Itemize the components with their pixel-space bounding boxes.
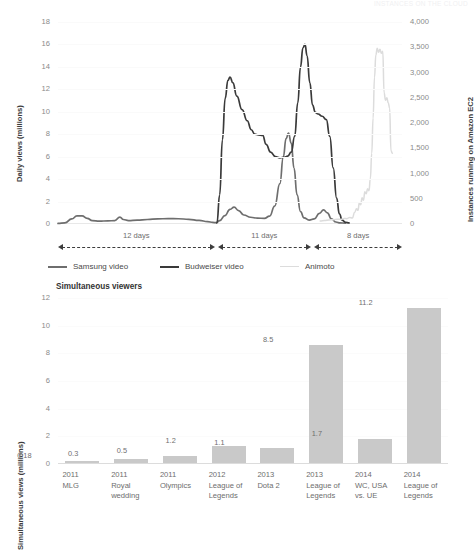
line-chart-y-tick-left: 0 xyxy=(26,219,50,228)
bar-chart-y-tick: 2 xyxy=(26,431,50,440)
bar-category-label: 2011 Olympics xyxy=(160,470,216,491)
line-chart-y-tick-left: 4 xyxy=(26,174,50,183)
line-chart-series-group xyxy=(58,22,402,224)
bar-item[interactable] xyxy=(260,448,294,463)
bar-rect xyxy=(163,456,197,463)
bar-chart: Simultaneous viewers Simultaneous views … xyxy=(0,282,472,520)
bar-rect xyxy=(212,446,246,463)
line-chart-y-tick-left: 18 xyxy=(26,17,50,26)
bar-chart-y-tick: 4 xyxy=(26,404,50,413)
line-chart-y-tick-right: 2,500 xyxy=(410,93,429,102)
bar-category-label: 2013 Dota 2 xyxy=(257,470,313,491)
bar-chart-gridline xyxy=(58,326,448,327)
bar-chart-gridline xyxy=(58,353,448,354)
span-label: 12 days xyxy=(58,231,215,240)
line-chart-gridline xyxy=(58,44,402,45)
legend-label: Animoto xyxy=(305,262,334,271)
span-label: 8 days xyxy=(314,231,402,240)
span-double-arrow xyxy=(314,244,402,251)
bar-chart-y-tick: 0 xyxy=(26,459,50,468)
bar-item[interactable] xyxy=(212,446,246,463)
line-chart-y-tick-right: 500 xyxy=(410,194,423,203)
line-chart-gridline xyxy=(58,179,402,180)
bar-chart-plot-area xyxy=(58,298,448,464)
bar-item[interactable] xyxy=(358,439,392,463)
bar-chart-y-tick: 6 xyxy=(26,376,50,385)
bar-item[interactable] xyxy=(309,345,343,463)
line-chart-gridline xyxy=(58,89,402,90)
bar-category-label: 2014 League of Legends xyxy=(404,470,460,502)
line-chart-gridline xyxy=(58,67,402,68)
line-chart-y-tick-right: 2,000 xyxy=(410,118,429,127)
line-chart-y-tick-left: 8 xyxy=(26,129,50,138)
page-header-faint: INSTANCES ON THE CLOUD xyxy=(300,0,468,9)
bar-category-label: 2011 Royal wedding xyxy=(111,470,167,502)
bar-rect xyxy=(114,459,148,463)
bar-category-label: 2014 WC, USA vs. UE xyxy=(355,470,411,502)
bar-chart-gridline xyxy=(58,436,448,437)
bar-category-label: 2011 MLG xyxy=(62,470,118,491)
bar-rect xyxy=(309,345,343,463)
line-chart-plot-area xyxy=(58,22,402,224)
span-label: 11 days xyxy=(218,231,311,240)
line-chart-gridline xyxy=(58,22,402,23)
bar-value-label: 1.1 xyxy=(194,438,244,447)
span-double-arrow xyxy=(58,244,215,251)
line-chart-gridline xyxy=(58,202,402,203)
line-chart-y-tick-right: 3,000 xyxy=(410,68,429,77)
bar-value-label: 0.3 xyxy=(48,449,98,458)
line-chart-y-tick-left: 16 xyxy=(26,39,50,48)
bar-chart-y-tick: 12 xyxy=(26,293,50,302)
legend-item-samsung-video[interactable]: Samsung video xyxy=(48,262,128,271)
bar-item[interactable] xyxy=(407,308,441,463)
bar-rect xyxy=(65,461,99,463)
bar-rect xyxy=(358,439,392,463)
line-chart-y-tick-left: 6 xyxy=(26,152,50,161)
legend-item-budweiser-video[interactable]: Budweiser video xyxy=(160,262,244,271)
line-chart-gridline xyxy=(58,112,402,113)
legend-swatch xyxy=(160,266,179,268)
bar-value-label: 1.2 xyxy=(146,436,196,445)
bar-chart-title: Simultaneous viewers xyxy=(56,282,142,291)
bar-value-label: 0.18 xyxy=(0,451,49,460)
line-chart-y-tick-right: 1,000 xyxy=(410,169,429,178)
line-chart-y-tick-right: 3,500 xyxy=(410,42,429,51)
bar-rect xyxy=(407,308,441,463)
line-chart-y-tick-left: 10 xyxy=(26,107,50,116)
bar-category-label: 2012 League of Legends xyxy=(209,470,265,502)
line-chart-gridline xyxy=(58,157,402,158)
bar-value-label: 0.5 xyxy=(97,446,147,455)
bar-item[interactable] xyxy=(114,459,148,463)
bar-item[interactable] xyxy=(65,461,99,463)
bar-chart-gridline xyxy=(58,381,448,382)
legend-label: Samsung video xyxy=(73,262,128,271)
legend-label: Budweiser video xyxy=(185,262,244,271)
line-chart-y-tick-right: 0 xyxy=(410,219,414,228)
bar-value-label: 1.7 xyxy=(292,429,342,438)
bar-value-label: 11.2 xyxy=(341,298,391,307)
line-chart-legend: Samsung videoBudweiser videoAnimoto xyxy=(48,262,378,276)
bar-category-label: 2013 League of Legends xyxy=(306,470,362,502)
bar-chart-y-tick: 8 xyxy=(26,348,50,357)
legend-item-animoto[interactable]: Animoto xyxy=(280,262,334,271)
bar-chart-y-tick: 10 xyxy=(26,321,50,330)
line-chart-y-axis-title-left: Daily views (millions) xyxy=(15,105,24,182)
legend-swatch xyxy=(48,266,67,268)
line-chart-y-tick-left: 14 xyxy=(26,62,50,71)
span-double-arrow xyxy=(218,244,311,251)
line-chart-y-axis-title-right: Instances running on Amazon EC2 xyxy=(466,97,475,222)
line-chart-y-tick-right: 1,500 xyxy=(410,143,429,152)
line-chart-y-tick-left: 2 xyxy=(26,197,50,206)
bar-value-label: 8.5 xyxy=(243,335,293,344)
line-chart-y-tick-right: 4,000 xyxy=(410,17,429,26)
bar-chart-baseline xyxy=(58,463,448,464)
line-chart: Daily views (millions) Instances running… xyxy=(0,14,472,272)
legend-swatch xyxy=(280,266,299,267)
bar-chart-gridline xyxy=(58,409,448,410)
line-chart-y-tick-left: 12 xyxy=(26,84,50,93)
line-chart-gridline xyxy=(58,134,402,135)
bar-rect xyxy=(260,448,294,463)
bar-item[interactable] xyxy=(163,456,197,463)
